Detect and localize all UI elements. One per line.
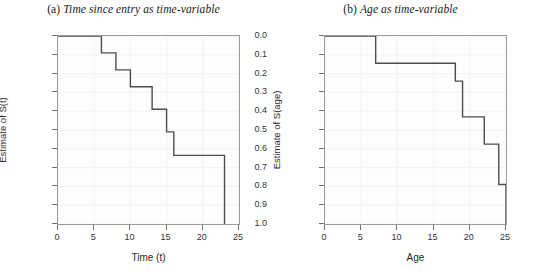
panel-b-xtick-label: 0 (309, 232, 339, 242)
panel-a-xtick-mark (57, 225, 58, 230)
panel-b-ytick-label: 1.0 (227, 218, 267, 228)
panel-a-xtick-label: 20 (187, 232, 217, 242)
panel-b-xtick-label: 5 (345, 232, 375, 242)
panel-a-xlabel: Time (t) (57, 252, 240, 263)
panel-b-xtick-mark (433, 225, 434, 230)
panel-b-xtick-label: 15 (418, 232, 448, 242)
panel-b-ytick-label: 0.7 (227, 162, 267, 172)
panel-b-xtick-mark (360, 225, 361, 230)
panel-b-ytick-label: 0.4 (227, 105, 267, 115)
panel-b-ytick-label: 0.0 (227, 30, 267, 40)
panel-b-xtick-label: 20 (454, 232, 484, 242)
panel-a-title: (a) Time since entry as time-variable (0, 3, 267, 15)
panel-b-ytick-label: 0.9 (227, 199, 267, 209)
panel-b-ytick-label: 0.3 (227, 86, 267, 96)
panel-b-ytick-label: 0.8 (227, 180, 267, 190)
panel-b-xtick-mark (324, 225, 325, 230)
panel-a-xtick-mark (202, 225, 203, 230)
panel-a-xtick-mark (129, 225, 130, 230)
panel-b: (b) Age as time-variable Estimate of S(a… (267, 0, 534, 279)
panel-a: (a) Time since entry as time-variable Es… (0, 0, 267, 279)
panel-a-xtick-label: 15 (151, 232, 181, 242)
panel-b-title: (b) Age as time-variable (267, 3, 534, 15)
figure-kaplan-meier-panels: (a) Time since entry as time-variable Es… (0, 0, 535, 279)
panel-b-ytick-label: 0.2 (227, 68, 267, 78)
panel-b-xtick-mark (469, 225, 470, 230)
panel-b-title-text: Age as time-variable (360, 3, 458, 15)
panel-a-tag: (a) (47, 3, 60, 15)
panel-a-xtick-label: 0 (42, 232, 72, 242)
panel-b-ytick-label: 0.6 (227, 143, 267, 153)
panel-a-xtick-mark (93, 225, 94, 230)
panel-a-gridlines (58, 36, 239, 224)
panel-b-ytick-label: 0.5 (227, 124, 267, 134)
panel-b-xtick-mark (396, 225, 397, 230)
panel-b-plot-area (324, 35, 507, 225)
panel-a-title-text: Time since entry as time-variable (63, 3, 220, 15)
panel-b-ytick-label: 0.1 (227, 49, 267, 59)
panel-b-curve-svg (325, 36, 506, 224)
panel-a-xtick-label: 25 (223, 232, 253, 242)
panel-a-plot-area (57, 35, 240, 225)
panel-b-xlabel: Age (324, 252, 507, 263)
panel-b-tag: (b) (343, 3, 357, 15)
panel-b-gridlines (325, 36, 506, 224)
panel-a-curve-svg (58, 36, 239, 224)
panel-a-xtick-layer: 0510152025 (0, 225, 267, 251)
panel-a-xtick-label: 5 (78, 232, 108, 242)
panel-a-xtick-mark (166, 225, 167, 230)
panel-b-xtick-label: 25 (490, 232, 520, 242)
panel-b-xtick-mark (505, 225, 506, 230)
panel-b-xtick-layer: 0510152025 (267, 225, 534, 251)
panel-b-xtick-label: 10 (381, 232, 411, 242)
panel-a-xtick-label: 10 (114, 232, 144, 242)
